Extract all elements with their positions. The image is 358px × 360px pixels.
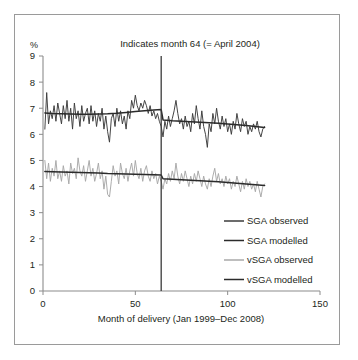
x-tick-label: 50 [130, 298, 141, 309]
y-tick-label: 3 [30, 207, 35, 218]
chart-canvas: 0123456789 050100150 % Indicates month 6… [0, 0, 358, 360]
y-tick-label: 9 [30, 50, 35, 61]
figure-root: 0123456789 050100150 % Indicates month 6… [0, 0, 358, 360]
y-tick-label: 6 [30, 129, 35, 140]
x-axis-ticks: 050100150 [40, 291, 328, 309]
legend-label-3: vSGA modelled [247, 274, 312, 285]
y-axis-unit-label: % [30, 40, 38, 50]
y-tick-label: 2 [30, 233, 35, 244]
y-tick-label: 7 [30, 103, 35, 114]
chart-legend: SGA observedSGA modelledvSGA observedvSG… [224, 215, 313, 285]
y-tick-label: 0 [30, 285, 35, 296]
chart-annotation-title: Indicates month 64 (= April 2004) [120, 38, 260, 49]
series-line-vsga-observed [45, 158, 265, 197]
data-series-layer [45, 93, 265, 197]
y-axis-ticks: 0123456789 [30, 50, 43, 296]
y-tick-label: 8 [30, 77, 35, 88]
x-tick-label: 150 [312, 298, 328, 309]
y-tick-label: 4 [30, 181, 35, 192]
x-tick-label: 100 [220, 298, 236, 309]
y-tick-label: 1 [30, 259, 35, 270]
series-line-vsga-modelled [45, 171, 265, 185]
x-axis-title: Month of delivery (Jan 1999–Dec 2008) [98, 313, 264, 324]
legend-label-1: SGA modelled [247, 235, 308, 246]
legend-label-0: SGA observed [247, 215, 308, 226]
legend-label-2: vSGA observed [247, 254, 313, 265]
y-tick-label: 5 [30, 155, 35, 166]
series-line-sga-observed [45, 93, 265, 148]
x-tick-label: 0 [40, 298, 45, 309]
